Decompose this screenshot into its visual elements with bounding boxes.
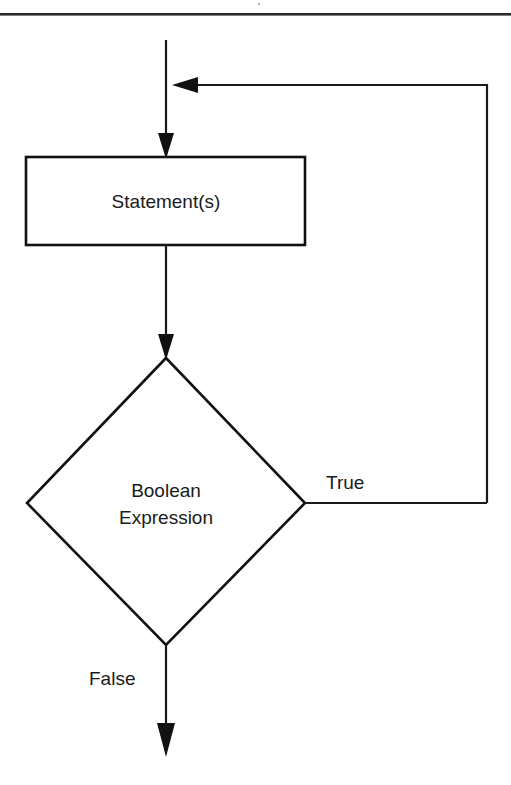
arrowhead-down-into-condition (158, 334, 174, 360)
arrowhead-left-loop-back (172, 77, 198, 93)
edge-false-branch: False (89, 645, 175, 757)
edge-label-true: True (326, 472, 364, 493)
edge-entry-arrow (158, 40, 174, 159)
node-statement[interactable]: Statement(s) (26, 157, 305, 245)
edge-true-branch: True (305, 472, 487, 503)
condition-label-line-2: Expression (119, 507, 213, 528)
statement-box-label: Statement(s) (112, 191, 221, 212)
condition-label-line-1: Boolean (131, 480, 201, 501)
top-horizontal-rule (0, 13, 511, 16)
arrowhead-down-into-statement (158, 133, 174, 159)
page-speck (258, 3, 260, 5)
flowchart-figure: Statement(s) Boolean Expression True Fal… (0, 0, 511, 785)
condition-diamond-outline (27, 358, 305, 645)
arrowhead-down-exit (157, 723, 175, 757)
edge-statement-to-condition (158, 245, 174, 360)
edge-label-false: False (89, 668, 135, 689)
flowchart-canvas: Statement(s) Boolean Expression True Fal… (0, 0, 511, 785)
node-condition[interactable]: Boolean Expression (27, 358, 305, 645)
